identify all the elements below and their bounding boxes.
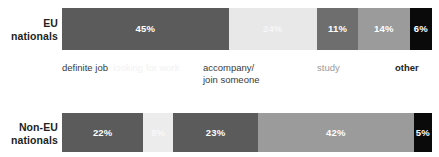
bar-value-eu-accompany-join-someone: 11% [328, 24, 347, 34]
category-label-definite-job: definite job [62, 62, 108, 74]
category-legend: definite job looking for work accompany/… [62, 62, 432, 88]
row-label-non-eu-line1: Non-EU [19, 121, 58, 133]
bar-segment-eu-looking-for-work: 24% [229, 8, 318, 50]
row-label-non-eu-line2: nationals [2, 134, 58, 147]
bar-value-non-eu-other: 5% [416, 128, 430, 138]
bar-value-eu-looking-for-work: 24% [263, 24, 283, 34]
bar-segment-eu-other: 6% [410, 8, 432, 50]
category-label-other: other [395, 62, 419, 74]
bar-value-eu-definite-job: 45% [135, 24, 155, 34]
bar-segment-non-eu-study: 42% [258, 113, 413, 152]
category-label-accompany-join-someone: accompany/ join someone [203, 62, 260, 85]
bar-segment-eu-study: 14% [358, 8, 410, 50]
bar-segment-non-eu-other: 5% [414, 113, 433, 152]
bar-value-non-eu-looking-for-work: 8% [151, 128, 165, 138]
bar-segment-non-eu-looking-for-work: 8% [143, 113, 173, 152]
bar-value-eu-study: 14% [374, 24, 394, 34]
row-label-eu-line1: EU [43, 17, 58, 29]
bar-value-non-eu-study: 42% [326, 128, 346, 138]
category-label-looking-for-work: looking for work [113, 62, 180, 74]
bar-segment-non-eu-accompany-join-someone: 23% [173, 113, 258, 152]
bar-segment-non-eu-definite-job: 22% [62, 113, 143, 152]
row-label-eu-nationals: EU nationals [2, 17, 58, 42]
category-label-study: study [317, 62, 340, 74]
bar-segment-eu-accompany-join-someone: 11% [317, 8, 358, 50]
bar-eu-nationals: 45% 24% 11% 14% 6% [62, 8, 432, 50]
row-label-eu-line2: nationals [2, 30, 58, 43]
bar-value-eu-other: 6% [414, 24, 428, 34]
row-label-non-eu-nationals: Non-EU nationals [2, 121, 58, 146]
bar-value-non-eu-accompany-join-someone: 23% [206, 128, 226, 138]
stacked-bar-chart: EU nationals 45% 24% 11% 14% 6% definite… [0, 0, 439, 157]
bar-value-non-eu-definite-job: 22% [93, 128, 113, 138]
bar-non-eu-nationals: 22% 8% 23% 42% 5% [62, 113, 432, 152]
bar-segment-eu-definite-job: 45% [62, 8, 229, 50]
